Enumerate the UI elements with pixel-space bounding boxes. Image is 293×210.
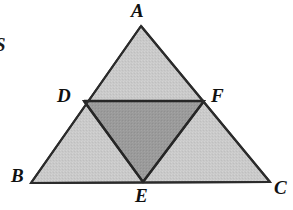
vertex-label-b: B [11, 166, 24, 185]
vertex-label-d: D [57, 86, 71, 105]
segment-bc [31, 182, 270, 183]
triangle-figure-svg [0, 0, 293, 210]
vertex-label-e: E [135, 186, 148, 205]
cropped-margin-glyph: S [0, 35, 5, 59]
vertex-label-c: C [274, 178, 287, 197]
vertex-label-f: F [211, 86, 224, 105]
vertex-label-a: A [131, 1, 144, 20]
geometry-diagram: A B C D E F S [0, 0, 293, 210]
